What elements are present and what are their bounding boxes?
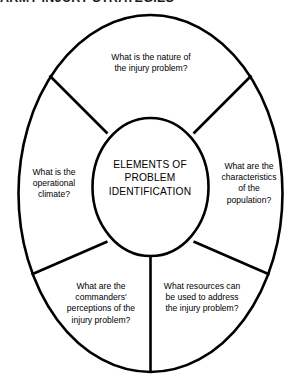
segment-label-bottom-left: What are the commanders' perceptions of … xyxy=(55,281,147,326)
segment-label-top: What is the nature of the injury problem… xyxy=(78,52,224,74)
segment-label-left: What is the operational climate? xyxy=(20,167,88,201)
segment-label-right: What are the characteristics of the popu… xyxy=(212,161,286,206)
center-label: ELEMENTS OF PROBLEM IDENTIFICATION xyxy=(92,158,208,198)
figure-canvas: ARMY INJURY STRATEGIES ELEMENTS OF PROBL… xyxy=(0,0,301,385)
segment-label-bottom-right: What resources can be used to address th… xyxy=(152,281,252,315)
